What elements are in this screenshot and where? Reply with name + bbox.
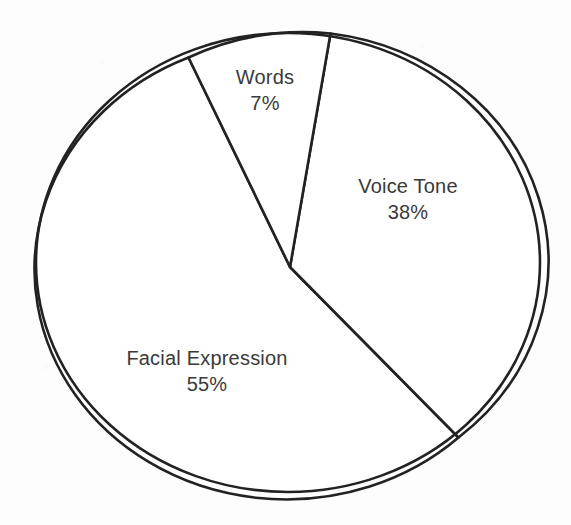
pie-label-voice-tone-name: Voice Tone — [358, 175, 458, 197]
pie-label-words-value: 7% — [236, 90, 294, 116]
pie-label-voice-tone-value: 38% — [358, 199, 458, 225]
pie-label-facial-expression-value: 55% — [126, 371, 287, 397]
pie-chart-figure: Words 7% Voice Tone 38% Facial Expressio… — [0, 0, 571, 525]
pie-label-facial-expression: Facial Expression 55% — [126, 345, 287, 397]
pie-label-words-name: Words — [236, 66, 294, 88]
pie-label-words: Words 7% — [236, 64, 294, 116]
pie-label-facial-expression-name: Facial Expression — [126, 347, 287, 369]
pie-label-voice-tone: Voice Tone 38% — [358, 173, 458, 225]
